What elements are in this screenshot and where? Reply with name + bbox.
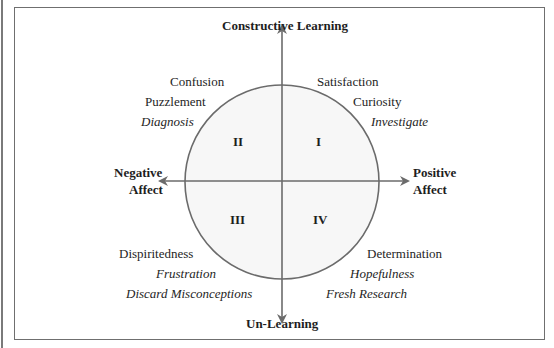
quadrant-numeral-iii: III bbox=[230, 212, 245, 228]
quadrant-numeral-i: I bbox=[316, 134, 321, 150]
quadrant-iii-term-1: Dispiritedness bbox=[119, 246, 193, 261]
quadrant-iv-term-1: Determination bbox=[367, 246, 442, 261]
quadrant-iv-action: Fresh Research bbox=[326, 286, 407, 301]
quadrant-ii-term-2: Puzzlement bbox=[145, 94, 206, 109]
quadrant-numeral-ii: II bbox=[233, 134, 243, 150]
quadrant-ii-term-1: Confusion bbox=[170, 74, 224, 89]
axis-label-top: Constructive Learning bbox=[222, 18, 348, 33]
quadrant-i-term-1: Satisfaction bbox=[317, 74, 378, 89]
axis-label-bottom: Un-Learning bbox=[246, 316, 318, 331]
quadrant-i-action: Investigate bbox=[371, 114, 428, 129]
quadrant-iv-italic-term: Hopefulness bbox=[350, 266, 414, 281]
axis-label-left-1: Negative bbox=[114, 165, 162, 180]
quadrant-i-term-2: Curiosity bbox=[353, 94, 401, 109]
axis-label-right-1: Positive bbox=[413, 165, 456, 180]
axis-label-right-2: Affect bbox=[413, 182, 447, 197]
quadrant-iii-action: Discard Misconceptions bbox=[126, 286, 252, 301]
quadrant-iii-italic-term: Frustration bbox=[156, 266, 216, 281]
learning-affect-diagram bbox=[0, 0, 554, 348]
axis-label-left-2: Affect bbox=[129, 182, 163, 197]
quadrant-ii-action: Diagnosis bbox=[141, 114, 194, 129]
quadrant-numeral-iv: IV bbox=[313, 212, 327, 228]
